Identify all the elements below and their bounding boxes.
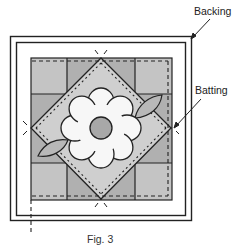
flower-center [90, 117, 112, 139]
figure-caption: Fig. 3 [87, 234, 113, 245]
corner-square [135, 163, 172, 200]
backing-arrow [193, 19, 210, 37]
corner-square [31, 163, 67, 200]
batting-label: Batting [195, 85, 228, 96]
corner-square [135, 58, 172, 94]
corner-square [31, 58, 67, 94]
flower [61, 88, 141, 168]
backing-label: Backing [194, 6, 231, 17]
